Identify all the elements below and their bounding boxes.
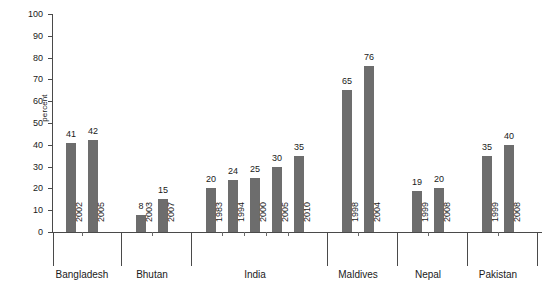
bar-slot: 24 (228, 14, 238, 232)
bar-value-label: 35 (285, 143, 313, 152)
y-axis-tick-label: 40 (0, 141, 43, 150)
bar-slot: 42 (88, 14, 98, 232)
x-axis-minor-tick (428, 232, 429, 236)
x-axis-year-label: 2008 (443, 202, 452, 236)
bar-value-label: 42 (79, 127, 107, 136)
bar-slot: 35 (482, 14, 492, 232)
x-axis-group-label: Pakistan (438, 270, 546, 280)
x-axis-group-separator (327, 232, 328, 266)
x-axis-year-label: 2005 (281, 202, 290, 236)
y-axis-tick-label: 60 (0, 97, 43, 106)
bar-value-label: 30 (263, 154, 291, 163)
bar-value-label: 15 (149, 186, 177, 195)
bar-slot: 30 (272, 14, 282, 232)
y-axis-tick-label: 50 (0, 119, 43, 128)
bar-value-label: 35 (473, 143, 501, 152)
x-axis-year-label: 1999 (421, 202, 430, 236)
y-axis-tick-label: 80 (0, 54, 43, 63)
x-axis-minor-tick (152, 232, 153, 236)
bar-slot: 15 (158, 14, 168, 232)
y-axis-tick-label: 10 (0, 206, 43, 215)
bar-slot: 20 (434, 14, 444, 232)
x-axis-year-label: 1983 (215, 202, 224, 236)
x-axis-minor-tick (358, 232, 359, 236)
y-axis-tick-label: 90 (0, 32, 43, 41)
x-axis-year-label: 2002 (75, 202, 84, 236)
x-axis-year-label: 1994 (237, 202, 246, 236)
y-axis-tick-label: 20 (0, 184, 43, 193)
y-axis-tick-label: 70 (0, 75, 43, 84)
x-axis-group-label: India (195, 270, 315, 280)
y-axis-tick-label: 30 (0, 163, 43, 172)
x-axis-minor-tick (266, 232, 267, 236)
plot-area: 41428152024253035657619203540 (52, 14, 530, 232)
x-axis-year-label: 2003 (145, 202, 154, 236)
bar-slot: 41 (66, 14, 76, 232)
x-axis-year-label: 1999 (491, 202, 500, 236)
bar-slot: 65 (342, 14, 352, 232)
x-axis-year-label: 2005 (97, 202, 106, 236)
x-axis-line (52, 232, 542, 233)
bar-slot: 20 (206, 14, 216, 232)
bar-slot: 8 (136, 14, 146, 232)
bar-slot: 40 (504, 14, 514, 232)
bar-slot: 19 (412, 14, 422, 232)
bar-slot: 76 (364, 14, 374, 232)
x-axis-minor-tick (82, 232, 83, 236)
x-axis-year-label: 2000 (259, 202, 268, 236)
bar-value-label: 40 (495, 132, 523, 141)
x-axis-minor-tick (288, 232, 289, 236)
y-axis-tick-label: 100 (0, 10, 43, 19)
y-axis-tick-label: 0 (0, 228, 43, 237)
x-axis-year-label: 1998 (351, 202, 360, 236)
x-axis-minor-tick (222, 232, 223, 236)
bar-value-label: 20 (425, 175, 453, 184)
x-axis-group-label: Bhutan (92, 270, 212, 280)
bar-value-label: 20 (197, 175, 225, 184)
x-axis-group-separator (537, 232, 538, 266)
bar-slot: 35 (294, 14, 304, 232)
x-axis-minor-tick (498, 232, 499, 236)
x-axis-group-separator (191, 232, 192, 266)
bar-value-label: 25 (241, 165, 269, 174)
bar-value-label: 76 (355, 53, 383, 62)
x-axis-group-separator (397, 232, 398, 266)
x-axis-group-separator (53, 232, 54, 266)
x-axis-year-label: 2010 (303, 202, 312, 236)
bar-value-label: 65 (333, 77, 361, 86)
x-axis-year-label: 2007 (167, 202, 176, 236)
x-axis-year-label: 2004 (373, 202, 382, 236)
x-axis-group-separator (467, 232, 468, 266)
x-axis-minor-tick (244, 232, 245, 236)
bar-slot: 25 (250, 14, 260, 232)
x-axis-group-separator (121, 232, 122, 266)
x-axis-year-label: 2008 (513, 202, 522, 236)
